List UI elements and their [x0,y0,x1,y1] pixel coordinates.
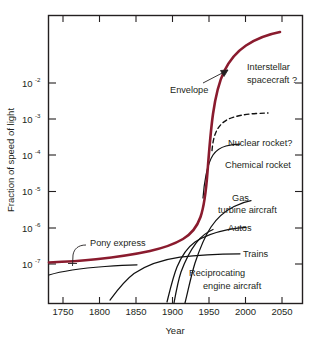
annotation-pony-express-label: Pony express [90,238,146,248]
x-tick-label-2000: 2000 [235,306,256,317]
annotation-trains-label: Trains [243,249,269,259]
y-axis-title: Fraction of speed of light [5,108,16,212]
x-axis-title: Year [165,325,184,336]
annotation-gas-line2: turbine aircraft [218,205,277,215]
series-pony-express-curve [49,265,137,275]
y-tick-label-1e-5-base: 10 [22,186,33,197]
annotation-recip-line1: Reciprocating [189,268,245,278]
x-tick-labels: 1750 1800 1850 1900 1950 2000 2050 [52,306,292,317]
y-tick-label-1e-6-base: 10 [22,223,33,234]
y-tick-marks [49,83,302,264]
y-tick-label-1e-6-exp: -6 [35,221,41,228]
y-tick-label-1e-2-base: 10 [22,78,33,89]
y-tick-label-1e-3-base: 10 [22,114,33,125]
annotation-interstellar-line2: spacecraft ? [247,75,297,85]
annotation-gas-turbine-aircraft: Gas turbine aircraft [218,193,277,215]
y-tick-label-1e-3-exp: -3 [35,112,41,119]
annotation-interstellar-spacecraft: Interstellar spacecraft ? [247,62,297,85]
annotation-nuclear-rocket-label: Nuclear rocket? [228,138,292,148]
y-tick-label-1e-7-base: 10 [22,259,33,270]
x-tick-label-1850: 1850 [125,306,146,317]
annotation-envelope-label: Envelope [170,85,208,95]
annotation-reciprocating-engine-aircraft: Reciprocating engine aircraft [189,268,262,291]
y-tick-label-1e-5-exp: -5 [35,185,41,192]
annotation-chemical-rocket-label: Chemical rocket [225,160,291,170]
annotation-interstellar-line1: Interstellar [247,62,290,72]
speed-of-light-progress-chart: 10 -2 10 -3 10 -4 10 -5 10 -6 10 -7 1750… [0,0,316,351]
x-tick-label-1750: 1750 [52,306,73,317]
x-tick-label-1900: 1900 [162,306,183,317]
y-tick-label-1e-4-exp: -4 [35,148,41,155]
annotation-autos-label: Autos [228,223,252,233]
x-tick-label-1800: 1800 [89,306,110,317]
chart-figure: 10 -2 10 -3 10 -4 10 -5 10 -6 10 -7 1750… [0,0,316,351]
y-tick-label-1e-2-exp: -2 [35,76,41,83]
annotation-gas-line1: Gas [232,193,249,203]
y-tick-labels: 10 -2 10 -3 10 -4 10 -5 10 -6 10 -7 [22,76,41,270]
y-tick-label-1e-4-base: 10 [22,150,33,161]
x-tick-label-2050: 2050 [271,306,292,317]
y-tick-label-1e-7-exp: -7 [35,257,41,264]
annotation-recip-line2: engine aircraft [203,281,262,291]
x-tick-label-1950: 1950 [198,306,219,317]
